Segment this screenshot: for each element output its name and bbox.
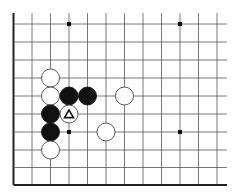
white-stone-icon xyxy=(97,123,115,141)
go-board[interactable] xyxy=(0,0,238,195)
black-stone[interactable] xyxy=(42,105,60,123)
black-stone-icon xyxy=(42,105,60,123)
black-stone[interactable] xyxy=(42,123,60,141)
star-point-icon xyxy=(178,22,182,26)
black-stone-icon xyxy=(60,87,78,105)
black-stone[interactable] xyxy=(60,87,78,105)
white-stone-icon xyxy=(42,87,60,105)
white-stone-icon xyxy=(42,141,60,159)
star-point-icon xyxy=(67,22,71,26)
black-stone-icon xyxy=(79,87,97,105)
white-stone-icon xyxy=(42,69,60,87)
white-stone[interactable] xyxy=(97,123,115,141)
white-stone-icon xyxy=(60,105,78,123)
white-stone[interactable] xyxy=(42,141,60,159)
white-stone-icon xyxy=(116,87,134,105)
white-stone[interactable] xyxy=(42,87,60,105)
star-point-icon xyxy=(67,130,71,134)
white-stone[interactable] xyxy=(60,105,78,123)
black-stone-icon xyxy=(42,123,60,141)
white-stone[interactable] xyxy=(116,87,134,105)
black-stone[interactable] xyxy=(79,87,97,105)
star-point-icon xyxy=(178,130,182,134)
white-stone[interactable] xyxy=(42,69,60,87)
